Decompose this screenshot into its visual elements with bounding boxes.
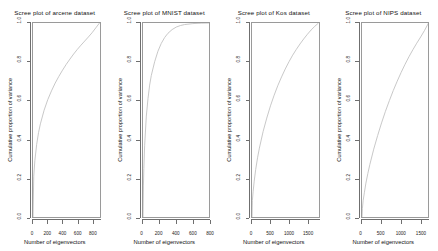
x-tick-mark [176,220,177,224]
y-tick-mark [355,179,359,180]
plot-area [361,22,430,218]
chart-panel-3: Scree plot of NIPS datasetCumulative pro… [329,0,438,251]
y-tick-label-text: 0.6 [347,95,352,101]
y-axis-title: Cumulative proportion of variance [6,22,16,218]
x-tick-label-text: 800 [206,232,214,237]
x-tick-mark [251,220,252,224]
y-tick-mark [27,100,31,101]
data-curve-0 [33,23,100,217]
data-curve-0 [252,23,319,217]
data-curve-0 [362,23,429,217]
y-tick-label-text: 0.0 [18,213,23,219]
x-tick-mark [142,220,143,224]
x-tick-mark [193,220,194,224]
x-tick-label-text: 1000 [284,232,294,237]
y-tick-mark [246,140,250,141]
y-tick-mark [136,100,140,101]
y-tick-mark [355,218,359,219]
y-axis-title-label: Cumulative proportion of variance [8,78,14,162]
y-tick-label-text: 1.0 [18,17,23,23]
x-tick-mark [308,220,309,224]
plot-area [32,22,101,218]
x-axis-line [251,219,320,220]
y-axis-line [30,22,31,218]
x-tick-label-text: 400 [59,232,67,237]
x-tick-label-text: 500 [266,232,274,237]
y-tick-label-text: 0.6 [128,95,133,101]
y-axis-title-label: Cumulative proportion of variance [227,78,233,162]
y-tick-mark [246,218,250,219]
x-tick-label-text: 0 [140,232,143,237]
y-tick-label-text: 0.4 [237,135,242,141]
y-axis-line [249,22,250,218]
chart-panel-0: Scree plot of arcene datasetCumulative p… [0,0,110,251]
y-tick-mark [355,61,359,62]
y-axis-title: Cumulative proportion of variance [116,22,126,218]
panel-title: Scree plot of arcene dataset [0,9,110,16]
curve-canvas [33,23,100,217]
x-axis-title: Number of eigenvectors [0,239,110,245]
y-tick-mark [355,100,359,101]
y-axis-title-label: Cumulative proportion of variance [118,78,124,162]
x-tick-label-text: 0 [31,232,34,237]
y-tick-label-text: 1.0 [237,17,242,23]
x-tick-label-text: 600 [74,232,82,237]
y-tick-label-text: 1.0 [128,17,133,23]
x-axis-line [32,219,101,220]
y-tick-mark [355,140,359,141]
x-tick-mark [381,220,382,224]
x-tick-mark [62,220,63,224]
y-tick-label-text: 0.2 [128,174,133,180]
y-axis-line [140,22,141,218]
y-tick-label-text: 0.2 [347,174,352,180]
chart-panel-1: Scree plot of MNIST datasetCumulative pr… [110,0,220,251]
y-tick-label-text: 0.8 [347,56,352,62]
panel-title: Scree plot of NIPS dataset [329,9,438,16]
y-axis-title-label: Cumulative proportion of variance [337,78,343,162]
y-tick-mark [136,22,140,23]
plot-area [142,22,211,218]
y-axis-title: Cumulative proportion of variance [225,22,235,218]
y-tick-label-text: 0.0 [128,213,133,219]
x-tick-label-text: 1500 [416,232,426,237]
plot-area [251,22,320,218]
x-axis-title: Number of eigenvectors [329,239,438,245]
y-tick-mark [27,61,31,62]
y-tick-label-text: 0.2 [18,174,23,180]
y-tick-label-text: 0.4 [347,135,352,141]
x-tick-label-text: 400 [172,232,180,237]
y-tick-mark [27,22,31,23]
x-tick-label-text: 600 [189,232,197,237]
x-tick-mark [32,220,33,224]
y-tick-mark [27,140,31,141]
y-tick-label-text: 0.8 [18,56,23,62]
y-tick-label-text: 0.2 [237,174,242,180]
y-tick-label-text: 1.0 [347,17,352,23]
x-tick-mark [401,220,402,224]
y-tick-mark [136,179,140,180]
x-tick-mark [210,220,211,224]
y-tick-mark [246,61,250,62]
panel-title: Scree plot of Kos dataset [219,9,329,16]
panel-title: Scree plot of MNIST dataset [110,9,220,16]
x-axis-line [361,219,430,220]
x-tick-label-text: 1000 [396,232,406,237]
data-curve-0 [143,23,210,217]
x-tick-label-text: 1500 [303,232,313,237]
x-tick-mark [270,220,271,224]
x-axis-title: Number of eigenvectors [219,239,329,245]
y-tick-mark [136,61,140,62]
x-tick-mark [421,220,422,224]
y-tick-label-text: 0.4 [128,135,133,141]
x-tick-label-text: 0 [359,232,362,237]
y-axis-title: Cumulative proportion of variance [335,22,345,218]
chart-panel-2: Scree plot of Kos datasetCumulative prop… [219,0,329,251]
y-axis-line [359,22,360,218]
x-tick-label-text: 500 [377,232,385,237]
y-tick-mark [246,100,250,101]
x-tick-label-text: 800 [89,232,97,237]
x-tick-mark [159,220,160,224]
y-tick-label-text: 0.8 [237,56,242,62]
x-tick-mark [47,220,48,224]
y-tick-label-text: 0.6 [18,95,23,101]
